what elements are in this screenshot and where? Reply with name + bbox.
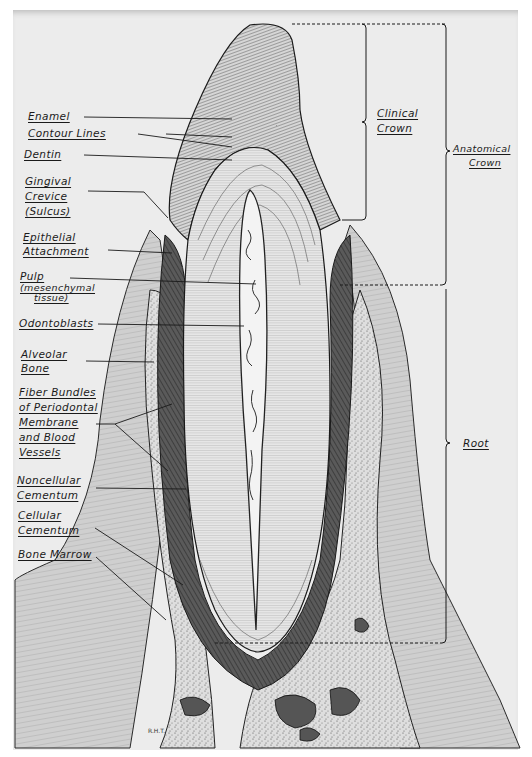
label-dentin: Dentin <box>24 148 61 161</box>
tooth-section-drawing <box>0 0 532 757</box>
label-fiber-bundles: Fiber Bundles of Periodontal Membrane an… <box>19 385 98 460</box>
label-bone-marrow: Bone Marrow <box>18 548 92 561</box>
label-pulp: Pulp (mesenchymal tissue) <box>20 270 95 304</box>
label-odontoblasts: Odontoblasts <box>19 317 93 330</box>
label-contour-lines: Contour Lines <box>28 127 106 140</box>
label-gingival-crevice: Gingival Crevice (Sulcus) <box>25 174 71 219</box>
label-noncellular-cementum: Noncellular Cementum <box>17 473 81 503</box>
label-anatomical-crown: Anatomical Crown <box>453 142 510 170</box>
label-clinical-crown: Clinical Crown <box>377 106 418 136</box>
artist-signature: R.H.T. <box>148 727 165 734</box>
label-root: Root <box>463 437 489 450</box>
label-alveolar-bone: Alveolar Bone <box>21 347 67 375</box>
label-cellular-cementum: Cellular Cementum <box>18 508 79 538</box>
label-enamel: Enamel <box>28 110 70 123</box>
label-epithelial-attachment: Epithelial Attachment <box>23 230 89 258</box>
